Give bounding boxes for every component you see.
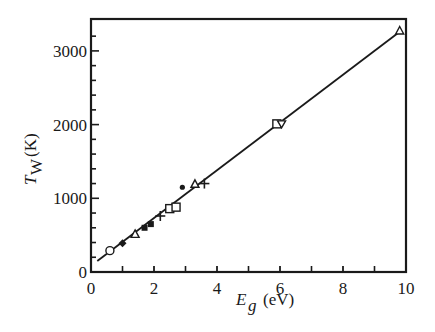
tick-labels: 02468100100020003000	[53, 42, 415, 298]
marker-open-triangle	[191, 180, 199, 188]
x-tick-label: 4	[213, 279, 222, 298]
filled-dot-icon	[180, 185, 185, 190]
marker-open-circle	[106, 247, 114, 255]
filled-square-icon	[142, 225, 148, 231]
marker-filled-dot	[180, 185, 185, 190]
x-tick-label: 8	[339, 279, 348, 298]
y-axis-title-unit: (K)	[21, 133, 40, 157]
x-tick-label: 0	[87, 279, 96, 298]
chart-canvas: 02468100100020003000 E g (eV) T W (K)	[0, 0, 435, 332]
y-tick-label: 2000	[53, 116, 87, 135]
y-tick-label: 0	[79, 263, 88, 282]
x-axis-title-sub: g	[248, 296, 257, 315]
marker-open-square	[172, 203, 180, 211]
x-tick-label: 10	[398, 279, 415, 298]
open-circle-icon	[106, 247, 114, 255]
filled-square-icon	[148, 221, 154, 227]
y-tick-label: 3000	[53, 42, 87, 61]
x-axis-title-main: E	[235, 290, 247, 309]
open-triangle-icon	[191, 180, 199, 188]
marker-plus	[155, 211, 165, 221]
open-triangle-icon	[396, 27, 404, 35]
x-axis-title-unit: (eV)	[263, 290, 294, 309]
marker-plus	[199, 179, 209, 189]
marker-filled-square	[148, 221, 154, 227]
marker-open-triangle	[396, 27, 404, 35]
open-square-icon	[172, 203, 180, 211]
y-axis-title-sub: W	[27, 158, 46, 175]
y-tick-label: 1000	[53, 189, 87, 208]
x-axis-title: E g (eV)	[235, 290, 294, 315]
marker-filled-square	[142, 225, 148, 231]
x-tick-label: 2	[150, 279, 159, 298]
y-axis-title: T W (K)	[21, 133, 46, 185]
